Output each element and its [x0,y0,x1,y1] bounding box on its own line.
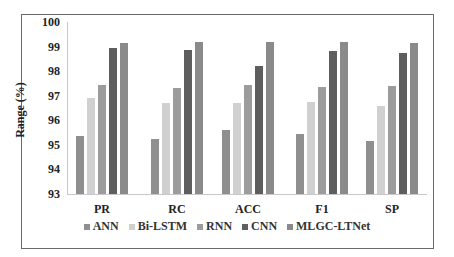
y-axis-line [67,22,68,194]
bar-cnn-pr [109,48,117,194]
y-tick-label: 93 [30,188,60,200]
legend-swatch-icon [197,224,203,230]
y-tick-label: 99 [30,41,60,53]
legend-item: RNN [197,219,232,234]
bar-bi-lstm-sp [377,106,385,194]
bar-mlgc-ltnet-sp [410,43,418,194]
legend-label: ANN [93,219,119,234]
bar-rnn-sp [388,86,396,194]
bar-mlgc-ltnet-f1 [340,42,348,194]
bar-bi-lstm-rc [162,103,170,194]
legend-item: ANN [84,219,119,234]
bar-ann-rc [151,139,159,194]
x-tick-label: SP [362,202,422,217]
legend-item: Bi-LSTM [129,219,187,234]
bar-cnn-f1 [329,51,337,194]
legend-item: CNN [242,219,277,234]
bar-ann-pr [76,136,84,194]
bar-cnn-acc [255,66,263,194]
bar-mlgc-ltnet-pr [120,43,128,194]
bar-rnn-acc [244,85,252,194]
y-tick-label: 95 [30,139,60,151]
bar-mlgc-ltnet-rc [195,42,203,194]
legend-label: Bi-LSTM [138,219,187,234]
bar-rnn-rc [173,88,181,194]
legend-swatch-icon [242,224,248,230]
x-tick-label: PR [72,202,132,217]
y-tick-label: 96 [30,114,60,126]
legend-label: MLGC-LTNet [296,219,370,234]
legend-swatch-icon [287,224,293,230]
x-tick-label: F1 [292,202,352,217]
bar-rnn-f1 [318,87,326,194]
legend-item: MLGC-LTNet [287,219,370,234]
legend: ANNBi-LSTMRNNCNNMLGC-LTNet [0,219,454,234]
y-tick-label: 98 [30,65,60,77]
bar-rnn-pr [98,85,106,194]
legend-label: RNN [206,219,232,234]
x-axis-line [67,194,427,195]
y-tick-label: 97 [30,90,60,102]
bar-bi-lstm-pr [87,98,95,194]
bar-cnn-rc [184,50,192,194]
bar-bi-lstm-acc [233,103,241,194]
bar-cnn-sp [399,53,407,194]
x-tick-label: RC [147,202,207,217]
legend-swatch-icon [84,224,90,230]
x-tick-label: ACC [218,202,278,217]
legend-swatch-icon [129,224,135,230]
bar-ann-acc [222,130,230,194]
bar-ann-f1 [296,134,304,194]
legend-label: CNN [251,219,277,234]
y-tick-label: 94 [30,163,60,175]
y-axis-label: Range (%) [13,82,28,138]
bar-bi-lstm-f1 [307,102,315,194]
y-tick-label: 100 [30,16,60,28]
bar-mlgc-ltnet-acc [266,42,274,194]
bar-ann-sp [366,141,374,194]
